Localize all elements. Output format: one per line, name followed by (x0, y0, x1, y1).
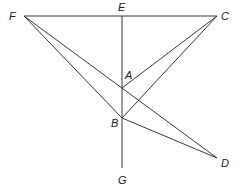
label-c: C (221, 10, 229, 22)
label-f: F (9, 10, 17, 22)
label-d: D (221, 157, 229, 169)
label-g: G (118, 174, 127, 186)
segment-cb (122, 16, 217, 118)
geometry-diagram: F E C A B D G (0, 0, 245, 194)
label-b: B (111, 117, 118, 129)
segment-fb (24, 16, 122, 118)
label-e: E (118, 1, 126, 13)
segment-bd (122, 118, 217, 158)
segment-fd (24, 16, 217, 158)
segment-ca (122, 16, 217, 88)
label-a: A (124, 69, 132, 81)
